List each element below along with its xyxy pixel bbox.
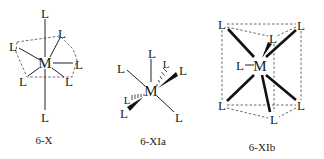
bond-lower-right — [52, 68, 64, 77]
ligand-right-front: L — [179, 63, 187, 78]
ligand-lower-left: L — [19, 74, 27, 89]
ligand-lower-right: L — [65, 74, 73, 89]
bond-bottom-left — [227, 75, 254, 101]
ligand-bottom-left: L — [218, 98, 226, 113]
bond-lower-right — [157, 96, 174, 112]
structure-6-X: L L L M L L L L 6-X — [9, 6, 83, 146]
structure-6-XIa: L L L L M L L L 6-XIa — [117, 46, 187, 147]
ligand-upper-right-back: L — [163, 58, 170, 70]
caption-6-XIa: 6-XIa — [140, 135, 166, 147]
ligand-bottom-middle: L — [270, 112, 278, 127]
ligand-top: L — [41, 6, 49, 21]
ligand-upper-left: L — [117, 61, 125, 76]
metal-center: M — [38, 55, 51, 71]
bond-left — [19, 48, 40, 60]
metal-center: M — [253, 58, 266, 74]
bond-upper-left — [127, 70, 145, 86]
caption-6-XIb: 6-XIb — [249, 141, 276, 153]
ligand-top-middle: L — [269, 31, 277, 46]
structure-6-XIb: L L L L M L L L 6-XIb — [218, 17, 305, 153]
wedge-bond-right — [158, 72, 178, 88]
bond-bottom-right — [266, 75, 296, 100]
ligand-top-right: L — [297, 18, 305, 33]
caption-6-X: 6-X — [35, 134, 52, 146]
coordination-geometry-diagram: L L L M L L L L 6-X L — [0, 0, 324, 159]
ligand-top: L — [148, 46, 156, 61]
metal-center: M — [144, 83, 157, 99]
ligand-bottom-right: L — [297, 98, 305, 113]
ligand-bottom: L — [41, 110, 49, 125]
ligand-left-back: L — [124, 94, 131, 106]
ligand-lower-right: L — [175, 110, 183, 125]
ligand-cap-left: L — [236, 58, 244, 73]
ligand-left: L — [9, 39, 17, 54]
ligand-right: L — [75, 57, 83, 72]
ligand-top-left: L — [218, 17, 226, 32]
bond-top-left — [228, 29, 254, 57]
bond-bottom-middle — [262, 75, 270, 112]
hash-bond-lower-left — [132, 94, 144, 100]
ligand-lower-left-front: L — [120, 106, 128, 121]
ligand-upper-right: L — [58, 26, 66, 41]
